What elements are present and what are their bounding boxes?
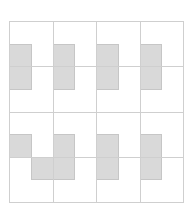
- grid-line-horizontal: [9, 202, 184, 203]
- filled-subcell: [140, 134, 163, 158]
- filled-subcell: [53, 157, 76, 181]
- grid-line-horizontal: [9, 21, 184, 22]
- filled-subcell: [96, 134, 119, 158]
- filled-subcell: [140, 66, 163, 90]
- filled-subcell: [96, 66, 119, 90]
- filled-subcell: [9, 44, 32, 68]
- filled-subcell: [53, 44, 76, 68]
- filled-subcell: [9, 134, 32, 158]
- filled-subcell: [31, 157, 54, 181]
- filled-subcell: [140, 44, 163, 68]
- grid-line-horizontal: [9, 66, 184, 67]
- filled-subcell: [53, 66, 76, 90]
- filled-subcell: [53, 134, 76, 158]
- filled-subcell: [9, 66, 32, 90]
- filled-subcell: [96, 44, 119, 68]
- grid-line-horizontal: [9, 112, 184, 113]
- filled-subcell: [96, 157, 119, 181]
- filled-subcell: [140, 157, 163, 181]
- grid-line-horizontal: [9, 157, 184, 158]
- grid-pattern-diagram: [0, 0, 195, 213]
